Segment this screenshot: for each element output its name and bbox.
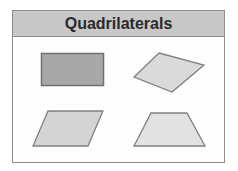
trapezoid-shape [134, 113, 205, 146]
rectangle-shape [42, 54, 104, 86]
parallelogram-shape [33, 111, 103, 146]
shapes-canvas [0, 0, 238, 171]
rhombus-shape [134, 53, 204, 92]
